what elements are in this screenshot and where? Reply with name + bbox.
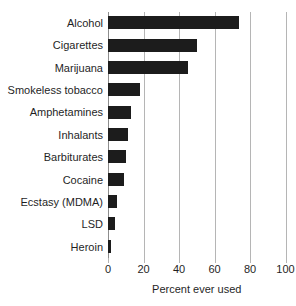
bar-row xyxy=(108,236,286,258)
bar xyxy=(108,83,140,96)
x-tick-label: 80 xyxy=(244,263,256,275)
bars xyxy=(108,12,286,258)
bar-row xyxy=(108,79,286,101)
bar-row xyxy=(108,12,286,34)
x-tick-label: 60 xyxy=(208,263,220,275)
category-label: Inhalants xyxy=(0,124,103,146)
category-label: Barbiturates xyxy=(0,146,103,168)
bar xyxy=(108,240,111,253)
x-tick-label: 20 xyxy=(137,263,149,275)
bar-row xyxy=(108,101,286,123)
plot-area xyxy=(108,12,286,258)
x-axis-tick-labels: 020406080100 xyxy=(108,263,286,279)
bar xyxy=(108,195,117,208)
bar-row xyxy=(108,57,286,79)
category-label: LSD xyxy=(0,213,103,235)
bar-row xyxy=(108,124,286,146)
bar xyxy=(108,150,126,163)
bar-row xyxy=(108,34,286,56)
category-label: Cigarettes xyxy=(0,34,103,56)
x-axis-title: Percent ever used xyxy=(108,283,286,295)
bar xyxy=(108,128,128,141)
bar-row xyxy=(108,146,286,168)
bar xyxy=(108,106,131,119)
bar-row xyxy=(108,169,286,191)
category-label: Marijuana xyxy=(0,57,103,79)
gridline-100 xyxy=(286,12,287,258)
category-label: Amphetamines xyxy=(0,101,103,123)
category-label: Smokeless tobacco xyxy=(0,79,103,101)
bar-row xyxy=(108,213,286,235)
bar-row xyxy=(108,191,286,213)
bar xyxy=(108,217,115,230)
category-axis-labels: AlcoholCigarettesMarijuanaSmokeless toba… xyxy=(0,12,103,258)
x-tick-label: 100 xyxy=(276,263,294,275)
x-tick-label: 0 xyxy=(105,263,111,275)
x-tick-label: 40 xyxy=(173,263,185,275)
bar xyxy=(108,61,188,74)
bar-chart: AlcoholCigarettesMarijuanaSmokeless toba… xyxy=(0,0,296,306)
category-label: Ecstasy (MDMA) xyxy=(0,191,103,213)
category-label: Alcohol xyxy=(0,12,103,34)
bar xyxy=(108,173,124,186)
bar xyxy=(108,39,197,52)
category-label: Heroin xyxy=(0,236,103,258)
bar xyxy=(108,16,239,29)
category-label: Cocaine xyxy=(0,169,103,191)
